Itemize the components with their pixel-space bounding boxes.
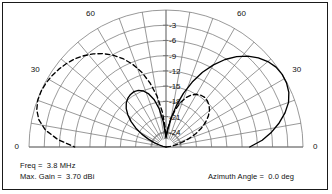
polar-grid (29, 10, 303, 147)
angle-tick-30: 30 (31, 65, 40, 74)
angle-tick-0: 0 (313, 142, 318, 151)
frequency-label: Freq = 3.8 MHz (20, 161, 75, 170)
trace-dashed-pattern (37, 54, 210, 147)
plot-frame: 030609060300-3-6-9-12-15-18-21-24 Freq =… (2, 2, 328, 190)
angle-tick-60: 60 (237, 9, 246, 18)
radial-tick--24: -24 (169, 128, 181, 137)
angle-tick-0: 0 (15, 142, 20, 151)
radial-tick--6: -6 (169, 36, 177, 45)
radial-tick--3: -3 (169, 21, 177, 30)
radial-tick--18: -18 (169, 97, 181, 106)
angle-tick-30: 30 (292, 65, 301, 74)
angle-tick-60: 60 (86, 9, 95, 18)
radial-tick--15: -15 (169, 82, 181, 91)
radial-tick--9: -9 (169, 52, 177, 61)
radial-tick--12: -12 (169, 67, 181, 76)
radial-tick--21: -21 (169, 113, 181, 122)
max-gain-label: Max. Gain = 3.70 dBi (20, 172, 94, 181)
angle-tick-90: 90 (162, 3, 171, 5)
azimuth-angle-label: Azimuth Angle = 0.0 deg (208, 172, 294, 181)
